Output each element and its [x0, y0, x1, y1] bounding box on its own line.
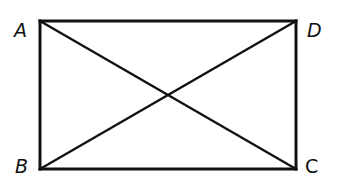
vertex-label-b: B: [15, 155, 28, 177]
vertex-label-c: C: [305, 155, 318, 177]
vertex-label-d: D: [307, 19, 322, 41]
vertex-label-a: A: [12, 19, 27, 41]
rectangle-diagram: A D B C: [0, 0, 338, 181]
